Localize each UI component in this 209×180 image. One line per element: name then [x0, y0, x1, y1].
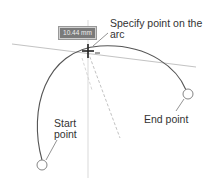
radius-dashed-line — [88, 52, 120, 138]
arc-diagram: 10.44 mm Specify point on the arc Start … — [0, 0, 209, 180]
start-point-label: Start point — [54, 118, 77, 140]
start-leader-line — [46, 140, 57, 160]
end-point-label: End point — [144, 114, 188, 125]
radius-dashed-line-2 — [82, 58, 92, 90]
end-point-marker — [183, 89, 193, 99]
prompt-label-line2: arc — [110, 29, 202, 40]
prompt-label: Specify point on the arc — [110, 18, 202, 40]
dimension-tooltip: 10.44 mm — [59, 27, 96, 39]
end-leader-line — [176, 99, 184, 111]
tangent-guide-line — [12, 44, 196, 67]
arc-curve — [37, 46, 186, 160]
start-label-line2: point — [54, 129, 77, 140]
start-point-marker — [37, 160, 47, 170]
